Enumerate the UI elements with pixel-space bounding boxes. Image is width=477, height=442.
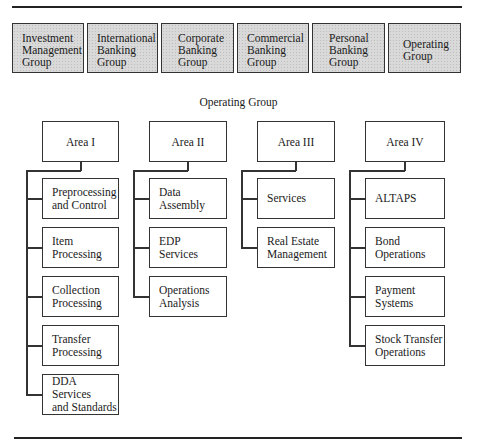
connector: [241, 198, 257, 200]
group-operating: Operating Group: [388, 23, 461, 73]
unit-label-line: Systems: [375, 297, 444, 310]
group-label-line: International: [97, 32, 157, 44]
unit-label-line: Transfer: [52, 333, 118, 346]
connector: [133, 170, 135, 297]
unit-label-line: Data: [159, 186, 226, 199]
unit-label-line: Processing: [52, 346, 118, 359]
connector: [241, 247, 257, 249]
group-label-line: Personal: [329, 32, 384, 44]
group-investment-management: Investment Management Group: [12, 23, 84, 73]
section-heading: Operating Group: [0, 96, 477, 108]
unit-label-line: Services: [159, 248, 226, 261]
unit-box: ALTAPS: [365, 178, 445, 219]
connector: [26, 170, 81, 172]
unit-label-line: Real Estate: [267, 235, 334, 248]
unit-box: EDP Services: [149, 227, 227, 268]
group-international-banking: International Banking Group: [87, 23, 158, 73]
area-2-box: Area II: [149, 121, 227, 162]
unit-box: Payment Systems: [365, 276, 445, 317]
group-label-line: Group: [178, 56, 233, 68]
unit-box: Collection Processing: [42, 276, 119, 317]
connector: [26, 170, 28, 395]
area-title: Area I: [66, 136, 95, 148]
unit-label-line: DDA Services: [52, 375, 118, 401]
group-label-line: Banking: [97, 44, 157, 56]
group-label-line: Banking: [329, 44, 384, 56]
area-4-box: Area IV: [365, 121, 445, 162]
area-1-box: Area I: [42, 121, 119, 162]
connector: [349, 170, 351, 346]
unit-box: Transfer Processing: [42, 325, 119, 366]
group-label-line: Group: [329, 56, 384, 68]
unit-label-line: Analysis: [159, 297, 226, 310]
group-label-line: Group: [247, 56, 308, 68]
connector: [349, 296, 365, 298]
connector: [133, 296, 149, 298]
connector: [133, 170, 188, 172]
unit-box: DDA Services and Standards: [42, 374, 119, 415]
group-commercial-banking: Commercial Banking Group: [237, 23, 309, 73]
group-label-line: Group: [97, 56, 157, 68]
connector: [133, 198, 149, 200]
connector: [241, 170, 296, 172]
unit-label-line: Assembly: [159, 199, 226, 212]
connector: [133, 247, 149, 249]
connector: [26, 247, 42, 249]
unit-box: Preprocessing and Control: [42, 178, 119, 219]
unit-box: Stock Transfer Operations: [365, 325, 445, 366]
connector: [349, 345, 365, 347]
group-label-line: Commercial: [247, 32, 308, 44]
unit-label-line: Services: [267, 192, 334, 205]
connector: [26, 394, 42, 396]
unit-box: Item Processing: [42, 227, 119, 268]
group-corporate-banking: Corporate Banking Group: [161, 23, 234, 73]
area-title: Area II: [172, 136, 205, 148]
unit-label-line: Item: [52, 235, 118, 248]
unit-label-line: Operations: [159, 284, 226, 297]
unit-label-line: Operations: [375, 248, 444, 261]
connector: [349, 198, 365, 200]
unit-label-line: Operations: [375, 346, 444, 359]
unit-label-line: Preprocessing: [52, 186, 118, 199]
area-3-box: Area III: [257, 121, 335, 162]
area-title: Area III: [278, 136, 315, 148]
unit-label-line: Processing: [52, 297, 118, 310]
unit-label-line: Stock Transfer: [375, 333, 444, 346]
unit-label-line: Payment: [375, 284, 444, 297]
group-label-line: Banking: [178, 44, 233, 56]
top-rule: [12, 6, 462, 8]
bottom-rule: [14, 437, 462, 439]
unit-box: Operations Analysis: [149, 276, 227, 317]
unit-box: Data Assembly: [149, 178, 227, 219]
unit-box: Services: [257, 178, 335, 219]
group-label-line: Management: [22, 44, 83, 56]
unit-label-line: Collection: [52, 284, 118, 297]
connector: [26, 198, 42, 200]
connector: [349, 170, 405, 172]
unit-label-line: Bond: [375, 235, 444, 248]
group-label-line: Group: [403, 50, 460, 62]
group-label-line: Investment: [22, 32, 83, 44]
unit-label-line: EDP: [159, 235, 226, 248]
unit-label-line: Processing: [52, 248, 118, 261]
group-label-line: Operating: [403, 38, 460, 50]
group-label-line: Group: [22, 56, 83, 68]
group-personal-banking: Personal Banking Group: [312, 23, 385, 73]
area-title: Area IV: [386, 136, 423, 148]
unit-box: Bond Operations: [365, 227, 445, 268]
group-label-line: Banking: [247, 44, 308, 56]
connector: [26, 345, 42, 347]
unit-label-line: and Standards: [52, 401, 118, 414]
group-label-line: Corporate: [178, 32, 233, 44]
connector: [26, 296, 42, 298]
unit-label-line: and Control: [52, 199, 118, 212]
unit-label-line: Management: [267, 248, 334, 261]
unit-box: Real Estate Management: [257, 227, 335, 268]
connector: [241, 170, 243, 248]
unit-label-line: ALTAPS: [375, 192, 444, 205]
connector: [349, 247, 365, 249]
